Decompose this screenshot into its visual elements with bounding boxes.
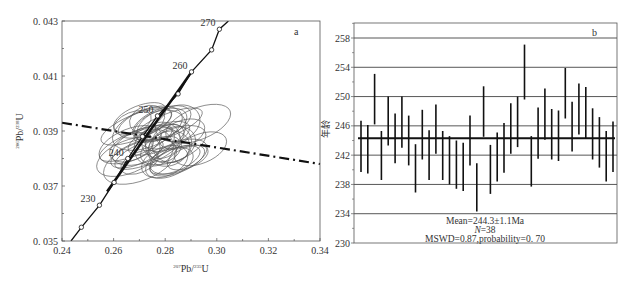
y-tick-label: 250 — [335, 91, 350, 102]
y-axis-label: 年龄 — [320, 120, 331, 138]
x-tick-label: 0.34 — [311, 245, 329, 256]
age-marker — [217, 27, 221, 31]
age-label: 240 — [109, 147, 124, 158]
age-label: 250 — [138, 104, 153, 115]
plot-frame — [354, 23, 617, 243]
y-tick-label: 246 — [335, 120, 350, 131]
x-tick-label: 0.26 — [105, 245, 123, 256]
y-tick-label: 230 — [335, 238, 350, 249]
y-tick-label: 234 — [335, 208, 350, 219]
weighted-mean-plot: 230234238242246250254258年龄bMean=244.3±1.… — [320, 23, 617, 249]
y-axis-label: 206Pb/238U — [14, 112, 25, 148]
y-tick-label: 238 — [335, 179, 350, 190]
error-ellipse — [160, 96, 236, 151]
y-tick-label: 258 — [335, 33, 350, 44]
y-tick-label: 0. 037 — [33, 181, 58, 192]
panel-label-a: a — [294, 26, 299, 37]
age-label: 270 — [200, 17, 215, 28]
mswd-annotation: MSWD=0.87,probability=0. 70 — [425, 234, 545, 244]
age-marker — [79, 225, 83, 229]
x-tick-label: 0.30 — [208, 245, 226, 256]
age-marker — [176, 92, 180, 96]
age-label: 230 — [80, 193, 95, 204]
x-tick-label: 0.32 — [260, 245, 278, 256]
discordia-line — [62, 123, 320, 164]
y-tick-label: 0. 035 — [33, 236, 58, 247]
y-tick-label: 254 — [335, 62, 350, 73]
panel-label-b: b — [592, 27, 597, 38]
age-label: 260 — [173, 60, 188, 71]
y-tick-label: 0. 039 — [33, 126, 58, 137]
age-marker — [189, 70, 193, 74]
age-marker — [97, 203, 101, 207]
x-tick-label: 0.24 — [53, 245, 71, 256]
y-tick-label: 0. 043 — [33, 16, 58, 27]
y-tick-label: 242 — [335, 150, 350, 161]
age-marker — [155, 114, 159, 118]
x-tick-label: 0.28 — [156, 245, 174, 256]
x-axis-label: 207Pb/235U — [173, 263, 209, 274]
y-tick-label: 0. 041 — [33, 71, 58, 82]
age-marker — [112, 180, 116, 184]
concordia-plot: 2302402502602700.240.260.280.300.320.340… — [14, 16, 329, 275]
age-marker — [140, 134, 144, 138]
figure: 2302402502602700.240.260.280.300.320.340… — [0, 0, 633, 282]
age-marker — [126, 156, 130, 160]
age-marker — [209, 48, 213, 52]
